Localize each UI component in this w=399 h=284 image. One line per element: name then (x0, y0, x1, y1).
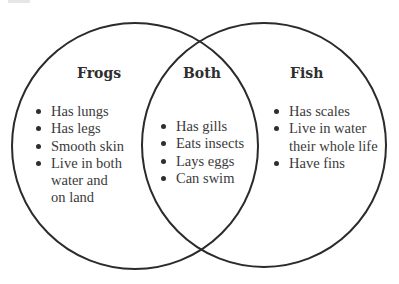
bullet-icon (274, 161, 279, 166)
frogs-title: Frogs (77, 65, 121, 81)
list-item: Smooth skin (36, 138, 124, 155)
fish-title: Fish (290, 65, 323, 81)
bullet-icon (161, 176, 166, 181)
fish-list: Has scales Live in water their whole lif… (274, 103, 378, 172)
bullet-icon (161, 124, 166, 129)
bullet-icon (36, 161, 41, 166)
bullet-icon (161, 141, 166, 146)
list-item: Live in water their whole life (274, 120, 378, 155)
list-item: Can swim (161, 170, 244, 187)
frogs-list: Has lungs Has legs Smooth skin Live in b… (36, 103, 124, 207)
list-item: Live in both water and on land (36, 155, 124, 207)
list-item: Has scales (274, 103, 378, 120)
both-title: Both (183, 65, 221, 81)
list-item: Has lungs (36, 103, 124, 120)
list-item: Eats insects (161, 135, 244, 152)
bullet-icon (161, 159, 166, 164)
list-item: Lays eggs (161, 153, 244, 170)
bullet-icon (36, 144, 41, 149)
list-item: Has legs (36, 120, 124, 137)
list-item: Have fins (274, 155, 378, 172)
bullet-icon (36, 126, 41, 131)
bullet-icon (274, 109, 279, 114)
list-item: Has gills (161, 118, 244, 135)
both-list: Has gills Eats insects Lays eggs Can swi… (161, 118, 244, 187)
bullet-icon (274, 126, 279, 131)
bullet-icon (36, 109, 41, 114)
